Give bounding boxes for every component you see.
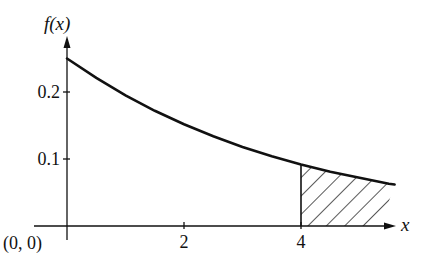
- y-tick-label: 0.2: [38, 82, 61, 102]
- y-axis-label: f(x): [44, 13, 70, 35]
- y-ticks: 0.10.2: [38, 82, 71, 169]
- y-axis-arrow-icon: [64, 36, 71, 48]
- origin-label: (0, 0): [3, 233, 42, 254]
- x-axis-label: x: [400, 214, 410, 235]
- y-tick-label: 0.1: [38, 149, 61, 169]
- x-axis-arrow-icon: [384, 223, 396, 230]
- shaded-tail-region: [301, 164, 395, 226]
- chart-canvas: 24 0.10.2 f(x) x (0, 0): [0, 0, 428, 266]
- x-tick-label: 2: [180, 232, 189, 252]
- x-tick-label: 4: [297, 232, 306, 252]
- density-curve: [67, 59, 395, 185]
